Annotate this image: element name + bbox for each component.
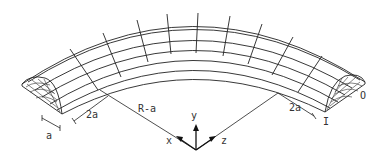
dim-2a-right-label: 2a: [289, 103, 301, 113]
x-axis-label: x: [166, 136, 172, 146]
elbow-mesh-diagram: a 2a R-a 2a I O y x z: [0, 0, 385, 164]
dim-2a-left-label: 2a: [86, 110, 98, 120]
z-axis-arrow: [196, 139, 212, 150]
mesh-drawing: [0, 0, 385, 164]
dim-a-line: [42, 115, 60, 131]
inner-end-label: I: [323, 117, 329, 127]
dim-r-a-label: R-a: [138, 104, 156, 114]
dim-a-label: a: [46, 131, 52, 141]
outer-end-label: O: [360, 91, 366, 101]
dim-r-a-line: [100, 90, 196, 150]
coordinate-axes: [176, 124, 216, 150]
left-end-cap: [22, 77, 62, 114]
inner-arc-edge: [62, 79, 325, 114]
x-axis-arrow: [180, 139, 196, 150]
y-axis-label: y: [191, 111, 197, 121]
right-end-cap: [325, 75, 365, 112]
z-axis-label: z: [221, 136, 227, 146]
